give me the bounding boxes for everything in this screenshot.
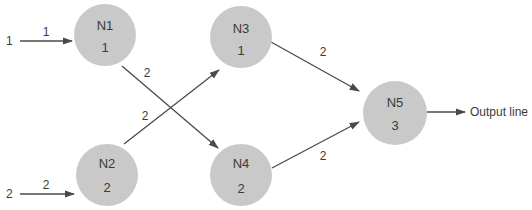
edge-n1-n4-line — [122, 66, 218, 148]
edge-n4-n5-line — [272, 122, 359, 168]
input-1-weight: 1 — [43, 25, 50, 39]
edge-n2-n3-weight: 2 — [142, 109, 149, 123]
node-n3: N3 1 — [210, 6, 272, 68]
edge-n3-n5-weight: 2 — [320, 45, 327, 59]
node-n2-value: 2 — [103, 180, 110, 195]
node-n4-value: 2 — [237, 181, 244, 196]
node-n5-circle — [363, 81, 427, 145]
edge-n1-n4-weight: 2 — [144, 66, 151, 80]
input-2: 2 2 — [6, 178, 74, 201]
node-n1: N1 1 — [74, 4, 136, 66]
node-n3-value: 1 — [237, 43, 244, 58]
node-n3-circle — [210, 6, 272, 68]
node-n2-circle — [76, 144, 138, 206]
edge-n3-n5-line — [271, 42, 359, 91]
node-n4: N4 2 — [210, 144, 272, 206]
node-n5-value: 3 — [391, 118, 398, 133]
node-n3-label: N3 — [233, 21, 250, 36]
node-n1-circle — [74, 4, 136, 66]
output: Output line — [427, 105, 528, 119]
node-n4-circle — [210, 144, 272, 206]
node-n1-label: N1 — [97, 18, 114, 33]
node-n4-label: N4 — [233, 156, 250, 171]
edge-n2-n3: 2 — [124, 70, 219, 144]
network-diagram: 1 1 2 2 2 2 2 2 Output line N1 1 N — [0, 0, 532, 210]
edge-n3-n5: 2 — [271, 42, 359, 91]
input-2-weight: 2 — [43, 178, 50, 192]
edge-n2-n3-line — [124, 70, 219, 144]
output-label: Output line — [470, 105, 528, 119]
node-n5: N5 3 — [363, 81, 427, 145]
input-2-value: 2 — [6, 187, 13, 201]
node-n1-value: 1 — [101, 40, 108, 55]
input-1: 1 1 — [6, 25, 72, 48]
node-n2-label: N2 — [99, 156, 116, 171]
node-n5-label: N5 — [387, 95, 404, 110]
edge-n1-n4: 2 — [122, 66, 218, 148]
edge-n4-n5: 2 — [272, 122, 359, 168]
node-n2: N2 2 — [76, 144, 138, 206]
edge-n4-n5-weight: 2 — [320, 149, 327, 163]
input-1-value: 1 — [6, 34, 13, 48]
